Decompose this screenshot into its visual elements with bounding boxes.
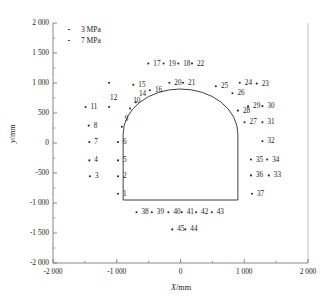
data-point-label: 28: [243, 108, 250, 115]
legend-entry-3mpa: 3 MPa: [68, 24, 101, 35]
data-point-label: 15: [138, 82, 145, 89]
x-tick-label: -1 000: [107, 268, 126, 275]
data-point-marker: [195, 211, 197, 213]
legend-marker-dot-icon: [68, 40, 70, 42]
data-point-marker: [239, 82, 241, 84]
data-point-marker: [88, 141, 90, 143]
data-point-marker: [268, 174, 270, 176]
data-point-label: 21: [188, 80, 195, 87]
data-point-label: 18: [183, 61, 190, 68]
legend: 3 MPa 7 MPa: [68, 24, 101, 46]
plot-canvas: [0, 0, 331, 301]
data-point-label: 9: [125, 116, 129, 123]
data-point-label: 42: [201, 209, 208, 216]
data-point-marker: [167, 211, 169, 213]
data-point-marker: [181, 211, 183, 213]
data-point-marker: [261, 105, 263, 107]
data-point-label: 4: [94, 157, 98, 164]
data-point-marker: [171, 228, 173, 230]
data-point-marker: [84, 106, 86, 108]
data-point-marker: [163, 62, 165, 64]
data-point-label: 8: [94, 123, 98, 130]
data-point-label: 40: [173, 209, 180, 216]
data-point-label: 11: [91, 104, 98, 111]
data-point-label: 29: [253, 103, 260, 110]
data-point-label: 41: [187, 209, 194, 216]
data-point-marker: [177, 62, 179, 64]
data-point-marker: [129, 107, 131, 109]
data-point-marker: [191, 62, 193, 64]
data-point-marker: [132, 84, 134, 86]
y-tick-label: -1 000: [0, 199, 49, 206]
data-point-marker: [237, 110, 239, 112]
x-tick-label: -2 000: [43, 268, 62, 275]
data-point-marker: [147, 62, 149, 64]
data-point-label: 26: [237, 90, 244, 97]
data-point-label: 27: [250, 119, 257, 126]
data-point-marker: [215, 85, 217, 87]
data-point-label: 20: [174, 80, 181, 87]
data-point-marker: [182, 82, 184, 84]
data-point-label: 36: [256, 172, 263, 179]
data-point-marker: [88, 159, 90, 161]
data-point-label: 7: [94, 139, 98, 146]
data-point-marker: [211, 211, 213, 213]
y-tick-label: 500: [0, 109, 49, 116]
y-tick-label: 1 500: [0, 49, 49, 56]
x-tick-label: 1 000: [236, 268, 253, 275]
data-point-label: 25: [221, 83, 228, 90]
data-point-marker: [117, 141, 119, 143]
data-point-label: 31: [267, 119, 274, 126]
data-point-label: 37: [257, 191, 264, 198]
data-point-marker: [261, 140, 263, 142]
data-point-marker: [168, 82, 170, 84]
data-point-label: 24: [245, 80, 252, 87]
data-point-marker: [251, 193, 253, 195]
scatter-plot-figure: 3 MPa 7 MPa -2 000-1 00001 0002 0002 000…: [0, 0, 331, 301]
data-point-label: 32: [267, 138, 274, 145]
legend-label-7mpa: 7 MPa: [81, 36, 101, 45]
legend-marker-dot-icon: [68, 29, 70, 31]
data-point-marker: [261, 121, 263, 123]
data-point-label: 35: [256, 157, 263, 164]
data-point-marker: [108, 82, 110, 84]
data-point-marker: [231, 92, 233, 94]
data-point-marker: [250, 174, 252, 176]
data-point-marker: [117, 159, 119, 161]
data-point-marker: [184, 228, 186, 230]
data-point-marker: [108, 106, 110, 108]
data-point-label: 14: [139, 91, 146, 98]
data-point-label: 5: [123, 157, 127, 164]
data-point-label: 10: [133, 98, 140, 105]
data-point-label: 30: [267, 103, 274, 110]
x-tick-label: 0: [179, 268, 183, 275]
tunnel-outline: [123, 89, 238, 200]
data-point-label: 34: [272, 157, 279, 164]
data-point-marker: [89, 175, 91, 177]
y-tick-label: 2 000: [0, 19, 49, 26]
data-point-label: 16: [155, 87, 162, 94]
data-point-marker: [244, 121, 246, 123]
data-point-label: 44: [190, 226, 197, 233]
data-point-label: 38: [142, 209, 149, 216]
data-point-label: 12: [110, 95, 117, 102]
data-point-marker: [149, 89, 151, 91]
data-point-marker: [151, 211, 153, 213]
x-axis-title: X/mm: [171, 283, 191, 292]
data-point-marker: [256, 83, 258, 85]
y-tick-label: 1 000: [0, 79, 49, 86]
data-point-label: 17: [153, 61, 160, 68]
data-point-label: 19: [169, 61, 176, 68]
data-point-marker: [121, 126, 123, 128]
y-tick-label: -2 000: [0, 259, 49, 266]
data-point-marker: [117, 175, 119, 177]
data-point-label: 2: [123, 173, 127, 180]
legend-entry-7mpa: 7 MPa: [68, 35, 101, 46]
data-point-label: 22: [197, 61, 204, 68]
data-point-label: 39: [157, 209, 164, 216]
data-point-marker: [117, 193, 119, 195]
data-point-marker: [135, 211, 137, 213]
data-point-label: 43: [217, 209, 224, 216]
y-tick-label: -1 500: [0, 229, 49, 236]
y-axis-title: y/mm: [8, 124, 17, 143]
